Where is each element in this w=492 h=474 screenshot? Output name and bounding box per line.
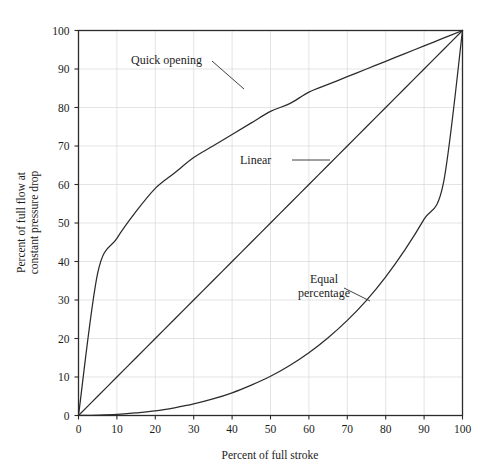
- y-tick-label: 80: [58, 102, 70, 114]
- x-tick-label: 100: [454, 423, 472, 435]
- chart-canvas: 0102030405060708090100010203040506070809…: [0, 0, 492, 474]
- x-tick-label: 80: [380, 423, 392, 435]
- y-axis-title-line-1: Percent of full flow at: [15, 171, 27, 273]
- annotation-linear-label: Linear: [240, 153, 271, 167]
- x-tick-label: 20: [150, 423, 162, 435]
- annotation-quick-opening-label: Quick opening: [131, 53, 202, 67]
- x-axis-title: Percent of full stroke: [222, 449, 319, 461]
- y-axis-title-line-2: constant pressure drop: [28, 171, 41, 275]
- x-tick-label: 40: [226, 423, 238, 435]
- x-tick-label: 70: [342, 423, 354, 435]
- x-tick-label: 60: [303, 423, 315, 435]
- annotation-equal-percentage-line-2: percentage: [298, 286, 350, 300]
- valve-characteristic-chart: 0102030405060708090100010203040506070809…: [0, 0, 492, 474]
- x-tick-label: 10: [111, 423, 123, 435]
- x-tick-label: 30: [188, 423, 200, 435]
- y-tick-label: 40: [58, 256, 70, 268]
- y-axis-title: Percent of full flow at constant pressur…: [15, 171, 41, 275]
- annotation-equal-percentage-line-1: Equal: [310, 272, 339, 286]
- y-tick-label: 50: [58, 217, 70, 229]
- x-tick-label: 90: [418, 423, 430, 435]
- chart-background: [0, 0, 492, 474]
- y-tick-label: 90: [58, 63, 70, 75]
- x-tick-label: 0: [76, 423, 82, 435]
- y-tick-label: 30: [58, 294, 70, 306]
- y-tick-label: 100: [52, 25, 70, 37]
- y-tick-label: 70: [58, 140, 70, 152]
- y-tick-label: 20: [58, 333, 70, 345]
- y-tick-label: 10: [58, 371, 70, 383]
- y-tick-label: 0: [64, 410, 70, 422]
- y-tick-label: 60: [58, 179, 70, 191]
- x-tick-label: 50: [265, 423, 277, 435]
